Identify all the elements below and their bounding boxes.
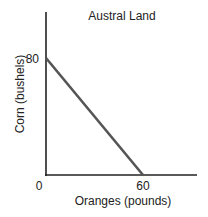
ppf-chart: Austral Land 80 0 60 Oranges (pounds) Co… — [0, 0, 208, 217]
x-axis-label: Oranges (pounds) — [75, 194, 172, 208]
origin-label: 0 — [36, 179, 43, 193]
ppf-line — [46, 58, 143, 175]
chart-svg: Austral Land 80 0 60 Oranges (pounds) Co… — [0, 0, 208, 217]
chart-title: Austral Land — [88, 9, 155, 23]
x-tick-60: 60 — [136, 179, 150, 193]
y-tick-80: 80 — [26, 52, 40, 66]
y-axis-label: Corn (bushels) — [13, 55, 27, 134]
